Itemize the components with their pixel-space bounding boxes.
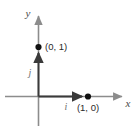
- vector-diagram-figure: y x j i (0, 1) (1, 0): [0, 0, 138, 129]
- point-marker-1-0: [85, 93, 91, 99]
- point-label-1-0: (1, 0): [77, 102, 99, 113]
- vector-j-label: j: [27, 67, 32, 78]
- point-label-0-1: (0, 1): [45, 41, 67, 52]
- y-axis-label: y: [25, 7, 31, 19]
- x-axis-label: x: [125, 97, 131, 109]
- point-marker-0-1: [35, 44, 41, 50]
- coordinate-plane-svg: y x j i (0, 1) (1, 0): [0, 0, 138, 129]
- vector-i-label: i: [65, 101, 68, 112]
